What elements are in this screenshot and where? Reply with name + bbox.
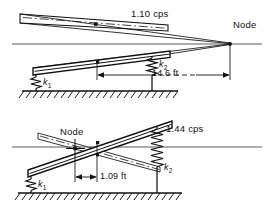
second-mode-displaced-mass-dot [96, 153, 99, 156]
second-mode-ground [15, 193, 182, 200]
k1-subscript: 1 [48, 82, 52, 89]
second-mode-frequency-label: 1.44 cps [166, 124, 204, 134]
second-mode-dimension-label: 1.09 ft [100, 172, 126, 181]
second-mode-spring-k2-label: k2 [164, 163, 173, 174]
first-mode-spring-k2-label: k2 [159, 60, 168, 71]
first-mode-spring-k1 [31, 75, 41, 92]
first-mode-mass-dot [96, 60, 99, 63]
first-mode-spring-k1-label: k1 [43, 78, 52, 89]
first-mode-ground [19, 91, 178, 98]
second-mode-mass-dot [96, 141, 99, 144]
k2-subscript: 2 [164, 64, 168, 71]
second-mode-spring-k2 [151, 126, 163, 193]
second-mode-diagram [12, 121, 262, 200]
first-mode-node-point [228, 42, 232, 46]
first-mode-displaced-mass-dot [94, 22, 97, 25]
second-mode-spring-k1-label: k1 [38, 180, 47, 191]
second-mode-node-label: Node [60, 127, 84, 137]
k1-subscript: 1 [43, 184, 47, 191]
first-mode-frequency-label: 1.10 cps [131, 9, 169, 19]
first-mode-node-label: Node [233, 20, 257, 30]
k2-subscript: 2 [169, 167, 173, 174]
vibration-mode-figure: 1.10 cps Node 14.6 ft k1 k2 1.44 cps Nod… [0, 0, 269, 214]
second-mode-spring-k1 [26, 177, 36, 194]
